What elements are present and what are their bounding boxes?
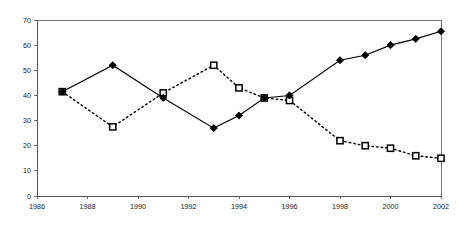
y-tick-label: 40 — [23, 91, 31, 100]
y-tick-label: 10 — [23, 166, 31, 175]
y-tick-label: 70 — [23, 16, 31, 25]
x-tick-label: 1996 — [282, 202, 298, 211]
y-tick-label: 20 — [23, 141, 31, 150]
dotted-series-marker — [236, 85, 242, 91]
y-tick-label: 30 — [23, 116, 31, 125]
x-tick-label: 1986 — [29, 202, 45, 211]
dotted-series-marker — [387, 145, 393, 151]
plot-area-border — [37, 20, 441, 196]
y-tick-label: 60 — [23, 41, 31, 50]
dotted-series-marker — [362, 143, 368, 149]
solid-series-marker — [362, 52, 369, 59]
x-tick-label: 1992 — [181, 202, 197, 211]
dotted-series-line — [62, 65, 441, 158]
x-axis: 198619881990199219941996199820002002 — [29, 196, 449, 211]
solid-series-marker — [387, 42, 394, 49]
x-tick-label: 1990 — [130, 202, 146, 211]
series-solid-diamond — [59, 28, 445, 132]
series-dotted-square — [59, 62, 444, 161]
x-tick-label: 1988 — [80, 202, 96, 211]
solid-series-line — [62, 31, 441, 128]
chart-canvas: 010203040506070 198619881990199219941996… — [0, 0, 473, 231]
line-chart: 010203040506070 198619881990199219941996… — [0, 0, 473, 231]
y-tick-label: 50 — [23, 66, 31, 75]
dotted-series-marker — [337, 138, 343, 144]
dotted-series-marker — [413, 153, 419, 159]
axis-lines — [37, 20, 441, 196]
solid-series-marker — [412, 35, 419, 42]
solid-series-marker — [437, 28, 444, 35]
x-tick-label: 1998 — [332, 202, 348, 211]
dotted-series-marker — [211, 62, 217, 68]
x-tick-label: 2000 — [383, 202, 399, 211]
solid-series-marker — [109, 62, 116, 69]
x-tick-label: 1994 — [231, 202, 247, 211]
solid-series-marker — [336, 57, 343, 64]
solid-series-marker — [210, 125, 217, 132]
y-axis: 010203040506070 — [23, 16, 37, 201]
dotted-series-marker — [110, 124, 116, 130]
y-tick-label: 0 — [27, 192, 31, 201]
solid-series-marker — [235, 112, 242, 119]
dotted-series-marker — [438, 155, 444, 161]
x-tick-label: 2002 — [433, 202, 449, 211]
